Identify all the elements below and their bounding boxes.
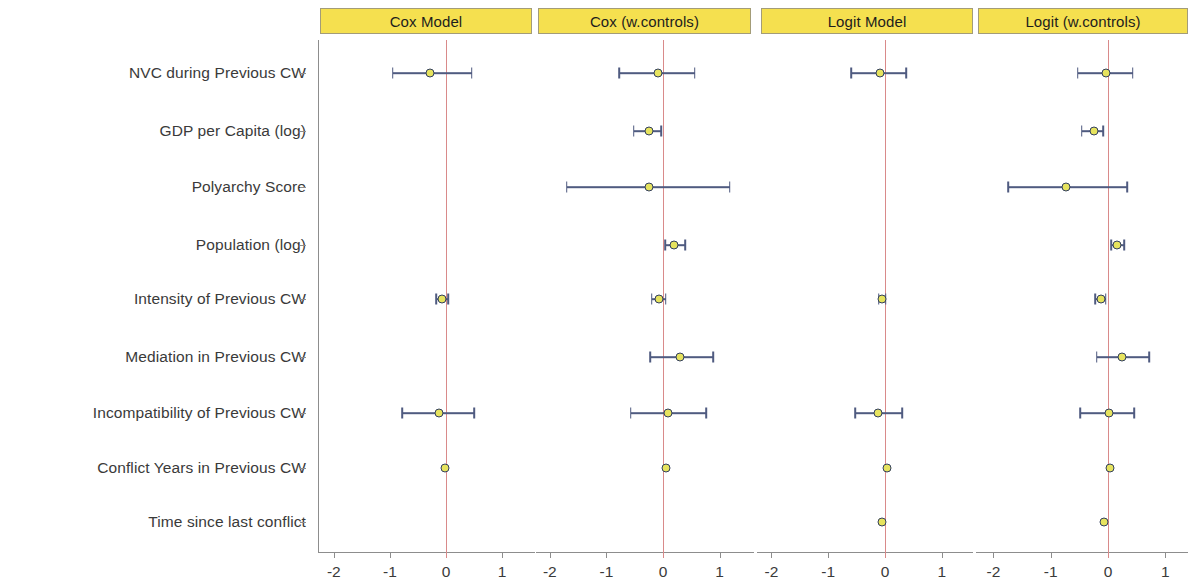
- x-axis-tick-0-2: [446, 553, 447, 558]
- row-label-0: NVC during Previous CW: [129, 64, 306, 82]
- error-bar-cap-2-6-low: [855, 408, 857, 419]
- estimate-point-3-7: [1105, 464, 1114, 473]
- panel-1: Cox (w.controls)-2-101: [536, 0, 754, 587]
- x-axis-tick-label-0-2: 0: [442, 563, 451, 581]
- y-axis-tick-6: [300, 413, 306, 414]
- x-axis-tick-3-2: [1108, 553, 1109, 558]
- error-bar-cap-3-2-low: [1008, 182, 1010, 193]
- error-bar-cap-0-0-low: [392, 68, 394, 79]
- estimate-point-2-6: [874, 409, 883, 418]
- row-label-7: Conflict Years in Previous CW: [97, 459, 306, 477]
- estimate-point-3-8: [1099, 518, 1108, 527]
- error-bar-cap-3-1-low: [1081, 126, 1083, 137]
- x-axis-line-1: [536, 552, 754, 553]
- error-bar-cap-2-6-high: [901, 408, 903, 419]
- x-axis-tick-1-3: [720, 553, 721, 558]
- y-axis-tick-0: [300, 73, 306, 74]
- error-bar-cap-3-5-low: [1096, 352, 1098, 363]
- x-axis-tick-2-2: [885, 553, 886, 558]
- error-bar-cap-3-1-high: [1103, 126, 1105, 137]
- row-label-8: Time since last conflict: [148, 513, 306, 531]
- y-axis-tick-7: [300, 468, 306, 469]
- estimate-point-1-2: [644, 183, 653, 192]
- estimate-point-3-4: [1097, 295, 1106, 304]
- estimate-point-1-5: [675, 353, 684, 362]
- error-bar-cap-1-6-high: [705, 408, 707, 419]
- x-axis-tick-2-3: [942, 553, 943, 558]
- error-bar-cap-1-6-low: [630, 408, 632, 419]
- error-bar-cap-1-4-high: [665, 294, 667, 305]
- x-axis-tick-label-0-1: -1: [383, 563, 397, 581]
- x-axis-tick-label-2-1: -1: [821, 563, 835, 581]
- error-bar-cap-1-5-low: [649, 352, 651, 363]
- panel-3: Logit (w.controls)-2-101: [976, 0, 1188, 587]
- estimate-point-1-7: [661, 464, 670, 473]
- y-axis-tick-3: [300, 245, 306, 246]
- error-bar-cap-3-5-high: [1148, 352, 1150, 363]
- row-label-2: Polyarchy Score: [192, 178, 306, 196]
- x-axis-tick-2-0: [771, 553, 772, 558]
- y-axis-tick-2: [300, 187, 306, 188]
- error-bar-cap-1-3-low: [664, 240, 666, 251]
- x-axis-tick-label-3-1: -1: [1044, 563, 1058, 581]
- x-axis-line-3: [976, 552, 1188, 553]
- estimate-point-3-2: [1062, 183, 1071, 192]
- error-bar-cap-0-0-high: [471, 68, 473, 79]
- estimate-point-1-4: [655, 295, 664, 304]
- error-bar-cap-1-3-high: [684, 240, 686, 251]
- plot-area-1: -2-101: [536, 40, 754, 553]
- estimate-point-2-4: [878, 295, 887, 304]
- x-axis-tick-label-0-3: 1: [498, 563, 507, 581]
- x-axis-tick-3-1: [1051, 553, 1052, 558]
- error-bar-cap-1-0-low: [619, 68, 621, 79]
- estimate-point-1-6: [664, 409, 673, 418]
- x-axis-tick-0-3: [502, 553, 503, 558]
- y-axis-tick-4: [300, 299, 306, 300]
- estimate-point-1-3: [670, 241, 679, 250]
- estimate-point-2-0: [875, 69, 884, 78]
- error-bar-cap-3-2-high: [1127, 182, 1129, 193]
- x-axis-tick-label-3-2: 0: [1104, 563, 1113, 581]
- x-axis-tick-3-0: [993, 553, 994, 558]
- panel-title-2: Logit Model: [761, 8, 973, 34]
- x-axis-tick-3-3: [1165, 553, 1166, 558]
- plot-area-0: -2-101: [318, 40, 534, 553]
- estimate-point-0-7: [441, 464, 450, 473]
- x-axis-tick-label-3-3: 1: [1161, 563, 1170, 581]
- row-label-4: Intensity of Previous CW: [134, 290, 306, 308]
- estimate-point-3-6: [1104, 409, 1113, 418]
- error-bar-cap-0-6-low: [401, 408, 403, 419]
- x-axis-tick-1-1: [606, 553, 607, 558]
- x-axis-tick-label-1-1: -1: [599, 563, 613, 581]
- error-bar-cap-0-4-high: [447, 294, 449, 305]
- estimate-point-3-3: [1113, 241, 1122, 250]
- x-axis-tick-0-0: [334, 553, 335, 558]
- x-axis-tick-label-1-0: -2: [543, 563, 557, 581]
- estimate-point-1-1: [644, 127, 653, 136]
- x-axis-tick-1-0: [550, 553, 551, 558]
- error-bar-cap-1-4-low: [651, 294, 653, 305]
- x-axis-line-2: [757, 552, 973, 553]
- y-axis-tick-8: [300, 522, 306, 523]
- x-axis-tick-label-1-3: 1: [715, 563, 724, 581]
- panel-title-3: Logit (w.controls): [978, 8, 1188, 34]
- error-bar-cap-0-6-high: [473, 408, 475, 419]
- zero-reference-line-3: [1108, 40, 1109, 553]
- panel-title-1: Cox (w.controls): [538, 8, 751, 34]
- estimate-point-2-8: [878, 518, 887, 527]
- error-bar-cap-3-6-low: [1079, 408, 1081, 419]
- error-bar-cap-2-0-low: [850, 68, 852, 79]
- error-bar-cap-3-0-high: [1132, 68, 1134, 79]
- x-axis-tick-0-1: [390, 553, 391, 558]
- error-bar-cap-2-0-high: [905, 68, 907, 79]
- estimate-point-1-0: [653, 69, 662, 78]
- x-axis-tick-label-3-0: -2: [986, 563, 1000, 581]
- plot-area-3: -2-101: [976, 40, 1188, 553]
- error-bar-cap-3-0-low: [1077, 68, 1079, 79]
- error-bar-cap-1-1-high: [661, 126, 663, 137]
- estimate-point-0-6: [434, 409, 443, 418]
- estimate-point-0-0: [425, 69, 434, 78]
- plot-area-2: -2-101: [757, 40, 973, 553]
- y-axis-tick-1: [300, 131, 306, 132]
- coefficient-plot-figure: NVC during Previous CWGDP per Capita (lo…: [0, 0, 1188, 587]
